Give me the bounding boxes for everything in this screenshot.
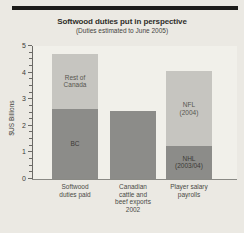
y-axis-line	[32, 46, 33, 180]
segment-label: NFL (2004)	[180, 101, 199, 116]
y-axis-minor-tick	[29, 78, 32, 79]
y-axis-major-tick	[28, 72, 32, 73]
chart-subtitle: (Duties estimated to June 2005)	[0, 27, 244, 34]
chart-title: Softwood duties put in perspective	[0, 17, 244, 26]
y-axis-tick-label: 4	[17, 68, 26, 77]
y-axis-minor-tick	[29, 112, 32, 113]
segment-label: Rest of Canada	[64, 74, 87, 89]
y-axis-minor-tick	[29, 92, 32, 93]
y-axis-tick-label: 1	[17, 147, 26, 156]
bar-segment	[110, 111, 156, 179]
bar-segment: NFL (2004)	[166, 71, 212, 145]
y-axis-tick-label: 2	[17, 121, 26, 130]
y-axis-minor-tick	[29, 58, 32, 59]
bar-2	[110, 111, 156, 179]
y-axis-title: $US Billions	[8, 78, 18, 158]
segment-label: BC	[70, 140, 79, 148]
bar-segment: BC	[52, 109, 98, 179]
y-axis-minor-tick	[29, 85, 32, 86]
segment-label: NHL (2003/04)	[175, 155, 203, 170]
y-axis-minor-tick	[29, 118, 32, 119]
bar-1: Rest of CanadaBC	[52, 54, 98, 179]
y-axis-minor-tick	[29, 131, 32, 132]
x-axis-line	[32, 179, 237, 180]
y-axis-minor-tick	[29, 52, 32, 53]
bar-3: NFL (2004)NHL (2003/04)	[166, 71, 212, 179]
top-rule	[12, 6, 238, 10]
y-axis-major-tick	[28, 151, 32, 152]
y-axis-major-tick	[28, 45, 32, 46]
bar-segment: Rest of Canada	[52, 54, 98, 109]
y-axis-minor-tick	[29, 65, 32, 66]
plot-area: 012345Rest of CanadaBCSoftwood duties pa…	[33, 46, 237, 179]
y-axis-minor-tick	[29, 158, 32, 159]
x-axis-category-label: Player salary payrolls	[154, 183, 224, 198]
y-axis-minor-tick	[29, 171, 32, 172]
y-axis-minor-tick	[29, 138, 32, 139]
y-axis-minor-tick	[29, 145, 32, 146]
y-axis-minor-tick	[29, 165, 32, 166]
y-axis-tick-label: 0	[17, 174, 26, 183]
y-axis-tick-label: 3	[17, 94, 26, 103]
bar-segment: NHL (2003/04)	[166, 146, 212, 179]
y-axis-major-tick	[28, 98, 32, 99]
y-axis-tick-label: 5	[17, 41, 26, 50]
y-axis-minor-tick	[29, 105, 32, 106]
y-axis-major-tick	[28, 125, 32, 126]
y-axis-major-tick	[28, 178, 32, 179]
